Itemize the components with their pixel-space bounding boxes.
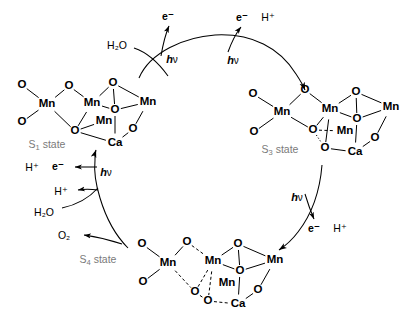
bond-O-Mn xyxy=(118,86,138,97)
state-label-text: S xyxy=(80,253,87,265)
bond-Mn-O xyxy=(317,117,324,125)
annotation-h2o-top: H₂O xyxy=(107,40,127,51)
atom-mn: Mn xyxy=(96,115,113,127)
annotation-e-top2: e⁻ xyxy=(236,12,248,23)
atom-mn: Mn xyxy=(205,255,222,267)
state-suffix: state xyxy=(91,253,117,265)
annotation-hv-top1: hν xyxy=(166,54,178,65)
annotation-h2o-left: H₂O xyxy=(34,207,54,218)
atom-o: O xyxy=(254,284,263,296)
atom-o: O xyxy=(250,126,259,138)
bond-Mn-O xyxy=(102,106,109,108)
atom-o: O xyxy=(204,295,213,307)
bond-O-Ca xyxy=(356,125,357,143)
atom-o: O xyxy=(353,113,362,125)
state-label-text: S xyxy=(262,143,269,155)
bond-Mn-O xyxy=(222,247,233,255)
atom-o: O xyxy=(129,123,138,135)
annotation-e-right: e⁻ xyxy=(308,223,320,234)
nu-glyph: ν xyxy=(107,167,112,178)
bond-Mn-O xyxy=(290,94,301,105)
bond-Mn-O xyxy=(340,113,352,117)
bond-O-O xyxy=(113,89,114,104)
bond-Mn-O xyxy=(339,95,351,103)
bond-O-Mn xyxy=(121,104,138,108)
atom-o: O xyxy=(234,238,243,250)
atom-o: O xyxy=(321,142,330,154)
atom-o: O xyxy=(191,286,200,298)
bond-O-O xyxy=(238,250,239,265)
atom-o: O xyxy=(139,276,148,288)
bond-Mn-O xyxy=(100,87,109,96)
atom-mn: Mn xyxy=(39,98,56,110)
annotation-hv-left: hν xyxy=(100,167,112,178)
bond-Mn-O xyxy=(55,90,64,98)
bond-O-Mn xyxy=(81,124,94,129)
annotation-hplus-right: H⁺ xyxy=(333,223,347,234)
bond-Ca-O xyxy=(122,133,128,137)
bond-Mn-O xyxy=(175,246,183,255)
bond-O-Mn xyxy=(147,248,160,257)
bond-O-Mn xyxy=(74,90,84,97)
atom-o: O xyxy=(65,80,74,92)
state-label-text: S xyxy=(29,138,36,150)
bond-O-Mn xyxy=(258,97,273,106)
state-suffix: state xyxy=(273,143,299,155)
bond-O-Mn xyxy=(244,246,266,255)
atom-o: O xyxy=(138,238,147,250)
annotation-hplus-l1: H⁺ xyxy=(25,162,39,173)
atom-o: O xyxy=(309,124,318,136)
bond-Mn-O xyxy=(209,271,212,295)
bond-O-Mn xyxy=(27,110,39,118)
atom-o: O xyxy=(18,116,27,128)
atom-mn: Mn xyxy=(383,101,400,113)
bond-Mn-O xyxy=(55,111,71,127)
bond-O-Mn xyxy=(362,94,382,103)
bond-Mn-O xyxy=(291,117,308,127)
atom-mn: Mn xyxy=(267,254,284,266)
bond-Ca-O xyxy=(363,141,370,146)
atom-o: O xyxy=(109,77,118,89)
atom-o: O xyxy=(249,88,258,100)
bond-O-Mn xyxy=(246,263,265,269)
bond-O-Mn xyxy=(259,118,274,128)
bond-O-O xyxy=(356,98,357,113)
annotation-hv-right: hν xyxy=(291,192,303,203)
bond-O-Mn xyxy=(363,110,381,117)
atom-mn: Mn xyxy=(337,125,354,137)
bond-Ca-O xyxy=(246,293,253,298)
atom-o: O xyxy=(371,132,380,144)
state-label-s1: S1 state xyxy=(29,139,66,151)
annotation-e-top1: e⁻ xyxy=(162,11,174,22)
atom-o: O xyxy=(71,125,80,137)
state-label-s4: S4 state xyxy=(80,254,117,266)
kok-cycle-diagram: OOMnOMnOOMnOMnOCaOOMnOMnOOMnOMnOCaOOOMnO… xyxy=(0,0,412,322)
atom-mn: Mn xyxy=(322,103,339,115)
bond-O-Ca xyxy=(331,149,346,151)
atom-mn: Mn xyxy=(84,97,101,109)
annotation-e-left: e⁻ xyxy=(52,161,64,172)
bond-O-Mn xyxy=(27,89,39,98)
bond-O-Mn xyxy=(192,246,205,255)
annotation-hv-top2: hν xyxy=(227,55,239,66)
bond-O-Mn xyxy=(148,269,160,278)
atom-o: O xyxy=(183,236,192,248)
state-suffix: state xyxy=(40,138,66,150)
bond-O-Mn xyxy=(310,94,322,103)
atom-o: O xyxy=(352,86,361,98)
bond-O-Ca xyxy=(214,302,229,303)
bond-O-Ca xyxy=(239,277,240,295)
atom-o: O xyxy=(18,79,27,91)
bond-Mn-O xyxy=(223,265,235,269)
atom-ca: Ca xyxy=(231,298,246,310)
atom-mn: Mn xyxy=(140,96,157,108)
atom-ca: Ca xyxy=(108,137,123,149)
atom-o: O xyxy=(236,265,245,277)
atom-mn: Mn xyxy=(219,277,236,289)
atom-ca: Ca xyxy=(348,146,363,158)
nu-glyph: ν xyxy=(234,55,239,66)
annotation-o2-left: O₂ xyxy=(58,230,70,241)
atom-mn: Mn xyxy=(274,106,291,118)
bond-O-Ca xyxy=(81,133,106,141)
atom-o: O xyxy=(301,84,310,96)
